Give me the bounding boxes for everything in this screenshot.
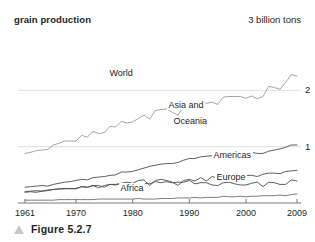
series-label-americas: Americas — [212, 150, 253, 160]
series-line-world — [25, 75, 297, 154]
gridlines-group — [18, 90, 301, 203]
series-label-europe: Europe — [215, 172, 247, 182]
series-label-asia-and-oceania-line2: Oceania — [172, 116, 209, 126]
y-axis-value-label: 1 — [305, 141, 310, 152]
figure-container: grain production 3 billion tons 19611970… — [0, 0, 315, 242]
series-label-world: World — [108, 68, 134, 78]
series-label-africa: Africa — [119, 183, 145, 193]
series-lines-group — [25, 75, 297, 201]
line-chart-plot — [0, 0, 315, 242]
series-line-africa — [25, 194, 297, 200]
series-label-asia-and-oceania-line1: Asia and — [167, 100, 205, 110]
figure-caption: Figure 5.2.7 — [0, 216, 315, 242]
triangle-marker-icon — [14, 225, 24, 234]
figure-caption-text: Figure 5.2.7 — [31, 223, 92, 235]
y-axis-value-label: 2 — [305, 84, 310, 95]
series-line-asia-and-oceania — [25, 145, 297, 187]
